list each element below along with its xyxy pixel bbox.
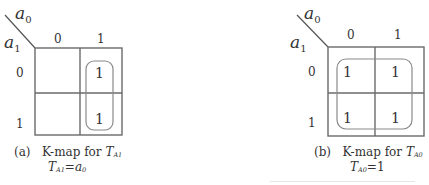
caption-fn: TA1 xyxy=(105,145,122,159)
row-label-0: 0 xyxy=(308,66,316,78)
cell-r1-c1: 1 xyxy=(95,112,104,126)
caption-tag: (a) xyxy=(14,145,31,159)
equation-a: TA1=a0 xyxy=(48,160,86,177)
col-variable: a0 xyxy=(15,5,32,25)
row-label-1: 1 xyxy=(16,118,24,130)
caption-fn: TA0 xyxy=(406,145,423,159)
row-variable: a1 xyxy=(4,34,21,54)
col-label-0: 0 xyxy=(54,33,62,45)
row-label-0: 0 xyxy=(16,67,24,79)
row-label-1: 1 xyxy=(308,117,316,129)
cell-r0-c1: 1 xyxy=(95,66,104,80)
cell-r1-c0: 1 xyxy=(343,111,352,125)
grid-border xyxy=(35,48,122,135)
col-label-0: 0 xyxy=(347,29,355,41)
col-label-1: 1 xyxy=(394,29,402,41)
col-label-1: 1 xyxy=(97,33,105,45)
row-variable: a1 xyxy=(290,34,307,54)
page-edge-shadow xyxy=(270,181,415,182)
cell-r0-c1: 1 xyxy=(391,65,400,79)
caption-title: K-map for xyxy=(343,145,403,159)
equation-b: TA0=1 xyxy=(350,160,385,177)
caption-title: K-map for xyxy=(42,145,102,159)
cell-r0-c0: 1 xyxy=(343,65,352,79)
caption-tag: (b) xyxy=(314,145,331,159)
col-variable: a0 xyxy=(304,5,321,25)
cell-r1-c1: 1 xyxy=(391,111,400,125)
